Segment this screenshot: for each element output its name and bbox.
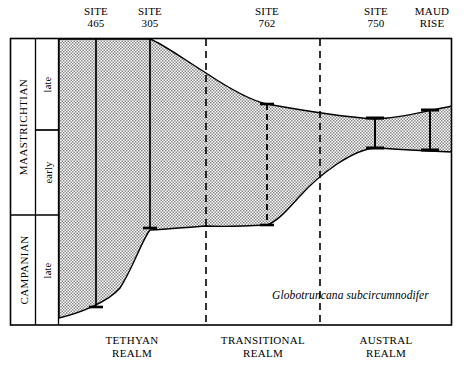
realm-label-tethyan: TETHYAN REALM (106, 334, 159, 359)
realm-label-line1: TETHYAN (106, 334, 159, 346)
substage-label-early-maastrichtian: early (36, 130, 59, 215)
range-chart-canvas (0, 0, 467, 370)
site-header-site-762: SITE 762 (255, 6, 279, 29)
stage-label-maastrichtian: MAASTRICHTIAN (11, 39, 36, 215)
site-header-line2: 750 (364, 18, 388, 30)
site-header-line2: 762 (255, 18, 279, 30)
site-header-line1: SITE (84, 6, 108, 18)
substage-label-late-campanian: late (36, 215, 59, 325)
realm-label-line2: REALM (112, 347, 152, 359)
figure-root: SITE 465 SITE 305 SITE 762 SITE 750 MAUD… (0, 0, 467, 370)
realm-label-transitional: TRANSITIONAL REALM (221, 334, 305, 359)
site-header-line1: SITE (364, 6, 388, 18)
site-header-line1: SITE (138, 6, 162, 18)
site-header-site-465: SITE 465 (84, 6, 108, 29)
site-header-site-305: SITE 305 (138, 6, 162, 29)
stage-label-campanian: CAMPANIAN (11, 215, 36, 325)
realm-label-line1: AUSTRAL (360, 334, 413, 346)
taxon-name-label: Globotruncana subcircumnodifer (272, 289, 429, 301)
site-header-line2: RISE (415, 18, 449, 30)
realm-label-line2: REALM (243, 347, 283, 359)
realm-label-line2: REALM (366, 347, 406, 359)
site-header-maud-rise: MAUD RISE (415, 6, 449, 29)
site-header-site-750: SITE 750 (364, 6, 388, 29)
site-header-line1: MAUD (415, 6, 449, 18)
abundance-band (59, 39, 452, 318)
site-header-line2: 305 (138, 18, 162, 30)
substage-label-late-maastrichtian: late (36, 39, 59, 130)
realm-label-austral: AUSTRAL REALM (360, 334, 413, 359)
realm-label-line1: TRANSITIONAL (221, 334, 305, 346)
site-header-line2: 465 (84, 18, 108, 30)
site-header-line1: SITE (255, 6, 279, 18)
